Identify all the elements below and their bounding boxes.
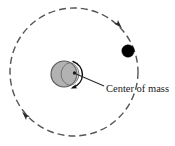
center-of-mass-diagram: Center of mass [0, 0, 175, 146]
orbit-arrow-upper-right-icon [114, 20, 124, 30]
orbit-arrow-lower-left-icon [20, 110, 30, 120]
secondary-body-black-dot-icon [122, 45, 134, 57]
center-of-mass-label: Center of mass [106, 83, 169, 94]
diagram-canvas: Center of mass [0, 0, 175, 146]
